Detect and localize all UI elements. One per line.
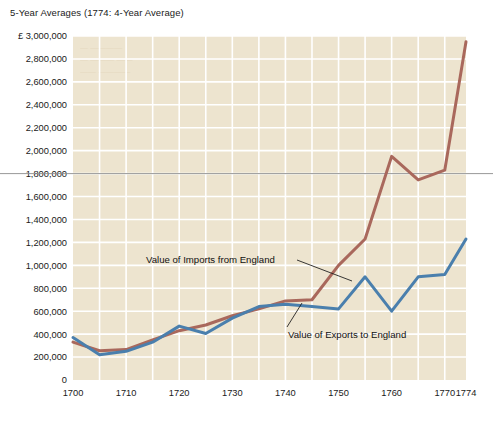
x-tick-label: 1750: [328, 388, 349, 398]
bleed-text: — ————: [80, 43, 122, 52]
chart-plot-area: — ————— ——— ———— ———— 0200,000400,000600…: [0, 0, 493, 421]
bleed-text: —— ————: [80, 67, 130, 76]
x-tick-label: 1740: [275, 388, 296, 398]
y-tick-label: 600,000: [33, 307, 67, 317]
x-tick-label: 1710: [116, 388, 137, 398]
x-tick-label: 1760: [381, 388, 402, 398]
y-tick-label: 1,400,000: [26, 215, 67, 225]
x-axis-tick-labels: 170017101720173017401750176017701774: [63, 388, 477, 398]
y-tick-label: 400,000: [33, 330, 67, 340]
x-tick-label: 1720: [169, 388, 190, 398]
y-tick-label: 2,000,000: [26, 146, 67, 156]
y-tick-label: 1,200,000: [26, 238, 67, 248]
y-tick-label: 2,400,000: [26, 100, 67, 110]
y-tick-label: 1,600,000: [26, 192, 67, 202]
y-tick-label: 0: [62, 375, 67, 385]
annotation-exports: Value of Exports to England: [288, 329, 406, 340]
y-tick-label: 800,000: [33, 284, 67, 294]
y-tick-label: 2,600,000: [26, 77, 67, 87]
annotation-imports: Value of Imports from England: [146, 254, 275, 265]
x-tick-label: 1700: [63, 388, 84, 398]
x-tick-label: 1774: [456, 388, 477, 398]
y-tick-label: 200,000: [33, 352, 67, 362]
plot-background: [73, 36, 466, 380]
x-tick-label: 1770: [434, 388, 455, 398]
y-tick-label: £ 3,000,000: [18, 31, 67, 41]
x-tick-label: 1730: [222, 388, 243, 398]
y-axis-tick-labels: 0200,000400,000600,000800,0001,000,0001,…: [18, 31, 67, 385]
y-tick-label: 1,000,000: [26, 261, 67, 271]
chart-container: 5-Year Averages (1774: 4-Year Average) —…: [0, 0, 493, 421]
y-tick-label: 2,200,000: [26, 123, 67, 133]
y-tick-label: 2,800,000: [26, 54, 67, 64]
